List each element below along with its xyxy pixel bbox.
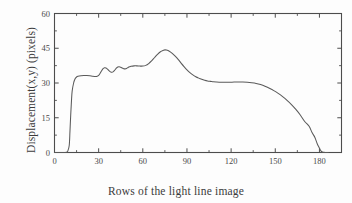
x-tick-label: 150 <box>269 156 282 166</box>
y-tick-label: 0 <box>46 148 50 158</box>
y-tick-label: 45 <box>42 43 51 53</box>
x-tick-label: 120 <box>225 156 238 166</box>
x-tick-label: 30 <box>94 156 103 166</box>
x-tick-label: 180 <box>313 156 326 166</box>
x-tick-label: 90 <box>183 156 192 166</box>
y-tick-label: 15 <box>42 113 51 123</box>
chart-figure: 0306090120150180015304560 Rows of the li… <box>0 0 352 203</box>
axis-ticks <box>55 14 342 153</box>
plot-frame <box>55 14 342 153</box>
x-tick-label: 60 <box>139 156 148 166</box>
y-tick-label: 60 <box>42 9 51 19</box>
x-tick-label: 0 <box>52 156 56 166</box>
data-series <box>55 50 329 153</box>
y-axis-title: Displacement(x,y) (pixels) <box>25 15 37 165</box>
series-line <box>55 50 329 153</box>
line-chart-plot: 0306090120150180015304560 <box>0 0 352 203</box>
y-tick-label: 30 <box>42 78 51 88</box>
axis-tick-labels: 0306090120150180015304560 <box>42 9 326 167</box>
x-axis-title: Rows of the light line image <box>0 185 352 197</box>
